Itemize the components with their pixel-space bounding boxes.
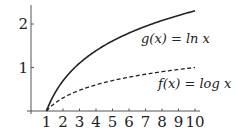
x-tick-label: 9: [174, 113, 184, 131]
x-ticks: 12345678910: [42, 109, 205, 132]
ln-curve: [47, 11, 196, 111]
x-tick-label: 1: [42, 113, 52, 131]
x-tick-label: 10: [185, 113, 204, 131]
x-tick-label: 6: [124, 113, 134, 131]
y-tick-label: 1: [18, 59, 28, 77]
x-tick-label: 4: [91, 113, 101, 131]
log-functions-chart: 12345678910 12 g(x) = ln x f(x) = log x: [0, 0, 235, 135]
axes: 12345678910 12: [18, 5, 204, 131]
x-tick-label: 8: [157, 113, 167, 131]
log10-curve-label: f(x) = log x: [157, 76, 232, 91]
x-tick-label: 3: [75, 113, 85, 131]
y-ticks: 12: [18, 15, 34, 77]
ln-curve-label: g(x) = ln x: [141, 31, 211, 46]
x-tick-label: 5: [108, 113, 118, 131]
y-tick-label: 2: [18, 15, 28, 33]
x-tick-label: 2: [58, 113, 68, 131]
curves: [47, 11, 196, 111]
x-tick-label: 7: [141, 113, 151, 131]
